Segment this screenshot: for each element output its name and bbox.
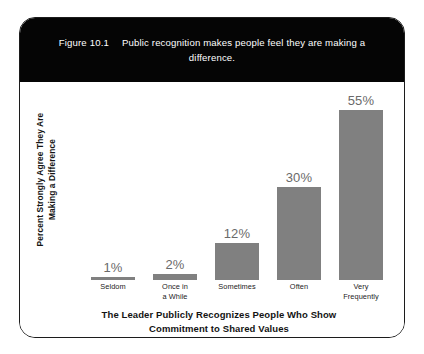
category-label-line2: Frequently bbox=[330, 292, 392, 302]
bar-value-label: 30% bbox=[277, 170, 320, 185]
bar-value-label: 2% bbox=[153, 257, 196, 272]
y-axis-title-line2: Making a Difference bbox=[47, 87, 59, 272]
category-label-line1: Sometimes bbox=[206, 282, 268, 292]
bar-once-in-a-while[interactable] bbox=[153, 274, 196, 280]
category-label-line1: Often bbox=[268, 282, 330, 292]
bar-column: 1% bbox=[91, 88, 134, 280]
bar-sometimes[interactable] bbox=[215, 243, 258, 280]
bar-column: 2% bbox=[153, 88, 196, 280]
bar-value-label: 55% bbox=[339, 93, 382, 108]
bar-column: 55% bbox=[339, 88, 382, 280]
bar-often[interactable] bbox=[277, 187, 320, 280]
bar-seldom[interactable] bbox=[91, 277, 134, 280]
category-label-sometimes: Sometimes bbox=[206, 282, 268, 292]
bar-value-label: 1% bbox=[91, 260, 134, 275]
figure-card: Figure 10.1Public recognition makes peop… bbox=[19, 17, 405, 338]
x-axis-title-line1: The Leader Publicly Recognizes People Wh… bbox=[54, 308, 384, 322]
bar-column: 12% bbox=[215, 88, 258, 280]
bar-very-frequently[interactable] bbox=[339, 110, 382, 280]
plot-area: 1%2%12%30%55% bbox=[82, 88, 392, 280]
figure-header: Figure 10.1Public recognition makes peop… bbox=[20, 18, 404, 82]
category-label-line2: a While bbox=[144, 292, 206, 302]
chart-body: Percent Strongly Agree They Are Making a… bbox=[20, 82, 404, 338]
category-axis: SeldomOnce ina WhileSometimesOftenVeryFr… bbox=[82, 282, 392, 308]
y-axis-title-line1: Percent Strongly Agree They Are bbox=[35, 87, 47, 272]
y-axis-title: Percent Strongly Agree They Are Making a… bbox=[35, 87, 58, 272]
figure-number: Figure 10.1 bbox=[59, 37, 109, 48]
category-label-often: Often bbox=[268, 282, 330, 292]
category-label-once-in-a-while: Once ina While bbox=[144, 282, 206, 301]
bar-column: 30% bbox=[277, 88, 320, 280]
category-label-line1: Very bbox=[330, 282, 392, 292]
x-axis-title-line2: Commitment to Shared Values bbox=[54, 322, 384, 336]
category-label-line1: Once in bbox=[144, 282, 206, 292]
category-label-line1: Seldom bbox=[82, 282, 144, 292]
category-label-seldom: Seldom bbox=[82, 282, 144, 292]
bar-value-label: 12% bbox=[215, 226, 258, 241]
x-axis-title: The Leader Publicly Recognizes People Wh… bbox=[54, 308, 384, 335]
figure-title: Figure 10.1Public recognition makes peop… bbox=[20, 35, 404, 65]
category-label-very-frequently: VeryFrequently bbox=[330, 282, 392, 301]
figure-caption: Public recognition makes people feel the… bbox=[122, 37, 365, 63]
